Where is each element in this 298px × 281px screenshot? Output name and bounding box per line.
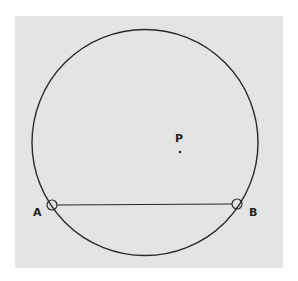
point-a-marker [47,200,57,210]
point-p-marker [179,151,182,154]
label-p: P [175,132,183,145]
geometry-diagram: A B P [0,0,298,281]
label-b: B [249,206,257,219]
main-circle [32,30,258,256]
chord-ab [57,204,232,205]
label-a: A [33,206,42,219]
